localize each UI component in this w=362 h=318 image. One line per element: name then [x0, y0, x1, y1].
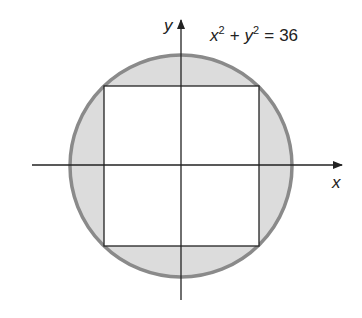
equation-x: x	[209, 26, 219, 45]
x-axis-label: x	[331, 173, 341, 192]
equation-label: x2+y2=36	[209, 24, 298, 45]
equation-rhs: 36	[279, 26, 298, 45]
equation-x-exponent: 2	[219, 24, 225, 36]
equation-plus: +	[230, 26, 240, 45]
equation-equals: =	[264, 26, 274, 45]
equation-y-exponent: 2	[253, 24, 259, 36]
circle-inscribed-square-diagram: y x x2+y2=36	[0, 0, 362, 318]
y-axis-label: y	[163, 16, 174, 35]
